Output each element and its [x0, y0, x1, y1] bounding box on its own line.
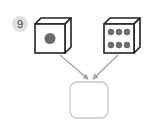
answer-box[interactable]	[70, 82, 108, 118]
arrow-left-icon	[60, 55, 88, 79]
die-six-pips-icon	[104, 18, 140, 53]
die-one-pip-icon	[35, 18, 71, 53]
arrow-right-icon	[93, 55, 118, 79]
